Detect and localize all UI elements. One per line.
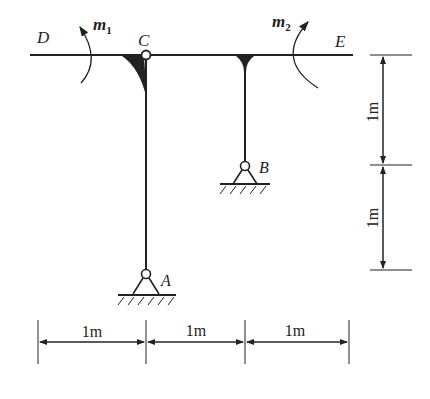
label-E: E bbox=[334, 32, 346, 51]
svg-text:1m: 1m bbox=[364, 207, 381, 228]
label-B: B bbox=[259, 159, 269, 176]
hinge-C bbox=[142, 51, 151, 60]
label-D: D bbox=[36, 28, 50, 47]
label-m2: m2 bbox=[272, 12, 291, 33]
svg-text:1m: 1m bbox=[186, 322, 207, 339]
label-m1: m1 bbox=[93, 15, 112, 36]
rigid-joint-C bbox=[122, 56, 147, 100]
svg-text:1m: 1m bbox=[285, 322, 306, 339]
frame-diagram: D C E B A m1 m2 1m 1m 1m 1m 1m bbox=[0, 0, 430, 399]
label-A: A bbox=[160, 272, 171, 289]
vertical-dimension: 1m 1m bbox=[364, 55, 412, 270]
svg-text:1m: 1m bbox=[364, 101, 381, 122]
label-C: C bbox=[138, 31, 150, 50]
svg-text:1m: 1m bbox=[82, 323, 103, 340]
horizontal-dimension: 1m 1m 1m bbox=[38, 320, 349, 364]
